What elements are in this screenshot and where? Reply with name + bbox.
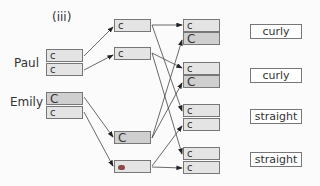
offspring-3-allele-1: c bbox=[183, 104, 220, 117]
emily-allele-1: C bbox=[46, 92, 83, 105]
offspring-2-allele-2: C bbox=[183, 75, 220, 88]
phenotype-2: curly bbox=[250, 68, 302, 83]
offspring-3-allele-2: c bbox=[183, 118, 220, 131]
ink-blot-icon bbox=[118, 165, 125, 170]
gamete-2: c bbox=[114, 47, 151, 60]
offspring-1-allele-2: C bbox=[183, 32, 220, 45]
offspring-2-allele-1: c bbox=[183, 62, 220, 75]
panel-label: (iii) bbox=[52, 10, 71, 24]
paul-allele-2: c bbox=[46, 63, 83, 76]
gamete-1: c bbox=[114, 19, 151, 32]
parent-name-paul: Paul bbox=[14, 56, 39, 70]
phenotype-1: curly bbox=[250, 24, 302, 39]
parent-name-emily: Emily bbox=[10, 95, 43, 109]
offspring-4-allele-1: c bbox=[183, 147, 220, 160]
phenotype-4: straight bbox=[250, 152, 302, 167]
offspring-4-allele-2: c bbox=[183, 161, 220, 174]
gamete-4 bbox=[114, 160, 151, 173]
gamete-3: C bbox=[114, 131, 151, 144]
paul-allele-1: c bbox=[46, 49, 83, 62]
phenotype-3: straight bbox=[250, 109, 302, 124]
emily-allele-2: c bbox=[46, 106, 83, 119]
offspring-1-allele-1: c bbox=[183, 19, 220, 32]
